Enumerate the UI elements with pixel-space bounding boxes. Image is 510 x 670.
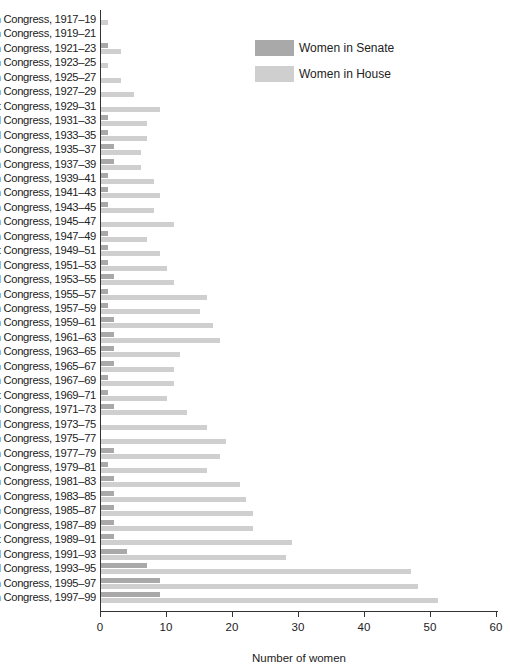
bar-house bbox=[101, 107, 160, 112]
category-label: 96th Congress, 1979–81 bbox=[0, 461, 96, 473]
category-label: 93d Congress, 1973–75 bbox=[0, 418, 96, 430]
bar-house bbox=[101, 511, 253, 516]
bar-house bbox=[101, 367, 174, 372]
category-label: 85th Congress, 1957–59 bbox=[0, 302, 96, 314]
women-in-congress-chart: 65th Congress, 1917–1966th Congress, 191… bbox=[0, 0, 510, 670]
category-label: 101st Congress, 1989–91 bbox=[0, 533, 96, 545]
x-tick-label: 10 bbox=[151, 621, 181, 633]
category-label: 65th Congress, 1917–19 bbox=[0, 13, 96, 25]
bar-house bbox=[101, 237, 147, 242]
bar-house bbox=[101, 193, 160, 198]
bar-senate bbox=[101, 130, 108, 135]
bar-house bbox=[101, 584, 418, 589]
bar-senate bbox=[101, 491, 114, 496]
x-tick bbox=[298, 611, 299, 617]
bar-house bbox=[101, 49, 121, 54]
bar-house bbox=[101, 381, 174, 386]
x-axis-label: Number of women bbox=[100, 652, 498, 664]
bar-senate bbox=[101, 578, 160, 583]
category-label: 103d Congress, 1993–95 bbox=[0, 562, 96, 574]
bar-house bbox=[101, 569, 411, 574]
bar-senate bbox=[101, 563, 147, 568]
category-label: 91st Congress, 1969–71 bbox=[0, 389, 96, 401]
x-tick bbox=[100, 611, 101, 617]
legend-item-house: Women in House bbox=[255, 66, 394, 82]
category-label: 74th Congress, 1935–37 bbox=[0, 143, 96, 155]
bar-house bbox=[101, 136, 147, 141]
x-tick-label: 60 bbox=[481, 621, 510, 633]
bar-house bbox=[101, 92, 134, 97]
category-label: 86th Congress, 1959–61 bbox=[0, 316, 96, 328]
x-tick bbox=[364, 611, 365, 617]
x-axis bbox=[100, 611, 498, 612]
category-label: 99th Congress, 1985–87 bbox=[0, 504, 96, 516]
legend-item-senate: Women in Senate bbox=[255, 40, 394, 56]
category-label: 104th Congress, 1995–97 bbox=[0, 577, 96, 589]
bar-senate bbox=[101, 534, 114, 539]
bar-senate bbox=[101, 390, 108, 395]
bar-house bbox=[101, 63, 108, 68]
category-label: 79th Congress, 1945–47 bbox=[0, 215, 96, 227]
category-label: 80th Congress, 1947–49 bbox=[0, 230, 96, 242]
x-tick bbox=[166, 611, 167, 617]
bar-senate bbox=[101, 245, 108, 250]
bar-senate bbox=[101, 187, 108, 192]
category-label: 95th Congress, 1977–79 bbox=[0, 447, 96, 459]
bar-house bbox=[101, 20, 108, 25]
category-label: 77th Congress, 1941–43 bbox=[0, 186, 96, 198]
bar-senate bbox=[101, 260, 108, 265]
category-label: 89th Congress, 1965–67 bbox=[0, 360, 96, 372]
category-label: 102d Congress, 1991–93 bbox=[0, 548, 96, 560]
legend-swatch-senate bbox=[255, 40, 294, 56]
bar-house bbox=[101, 439, 226, 444]
category-label: 100th Congress, 1987–89 bbox=[0, 519, 96, 531]
category-label: 88th Congress, 1963–65 bbox=[0, 345, 96, 357]
x-tick-label: 20 bbox=[217, 621, 247, 633]
category-label: 73d Congress, 1933–35 bbox=[0, 129, 96, 141]
bar-house bbox=[101, 150, 141, 155]
category-label: 98th Congress, 1983–85 bbox=[0, 490, 96, 502]
bar-senate bbox=[101, 404, 114, 409]
bar-senate bbox=[101, 505, 114, 510]
bar-house bbox=[101, 222, 174, 227]
bar-senate bbox=[101, 159, 114, 164]
bar-senate bbox=[101, 173, 108, 178]
category-label: 76th Congress, 1939–41 bbox=[0, 172, 96, 184]
bar-house bbox=[101, 468, 207, 473]
bar-house bbox=[101, 497, 246, 502]
bar-house bbox=[101, 165, 141, 170]
bar-senate bbox=[101, 115, 108, 120]
bar-senate bbox=[101, 43, 108, 48]
bar-house bbox=[101, 454, 220, 459]
bar-senate bbox=[101, 462, 108, 467]
category-label: 78th Congress, 1943–45 bbox=[0, 201, 96, 213]
bar-house bbox=[101, 482, 240, 487]
x-tick-label: 30 bbox=[283, 621, 313, 633]
category-label: 67th Congress, 1921–23 bbox=[0, 42, 96, 54]
bar-senate bbox=[101, 346, 114, 351]
bar-house bbox=[101, 352, 180, 357]
x-tick bbox=[232, 611, 233, 617]
category-label: 71st Congress, 1929–31 bbox=[0, 100, 96, 112]
bar-house bbox=[101, 280, 174, 285]
category-label: 68th Congress, 1923–25 bbox=[0, 56, 96, 68]
legend: Women in Senate Women in House bbox=[255, 40, 394, 92]
legend-swatch-house bbox=[255, 66, 294, 82]
bar-house bbox=[101, 338, 220, 343]
bar-house bbox=[101, 78, 121, 83]
bar-senate bbox=[101, 202, 108, 207]
category-label: 87th Congress, 1961–63 bbox=[0, 331, 96, 343]
category-label: 75th Congress, 1937–39 bbox=[0, 158, 96, 170]
bar-senate bbox=[101, 274, 114, 279]
x-tick-label: 50 bbox=[415, 621, 445, 633]
bar-senate bbox=[101, 520, 114, 525]
bar-senate bbox=[101, 289, 108, 294]
bar-senate bbox=[101, 448, 114, 453]
bar-house bbox=[101, 425, 207, 430]
bar-house bbox=[101, 121, 147, 126]
bar-senate bbox=[101, 303, 108, 308]
bar-senate bbox=[101, 592, 160, 597]
bar-senate bbox=[101, 231, 108, 236]
category-label: 83d Congress, 1953–55 bbox=[0, 273, 96, 285]
bar-house bbox=[101, 540, 292, 545]
